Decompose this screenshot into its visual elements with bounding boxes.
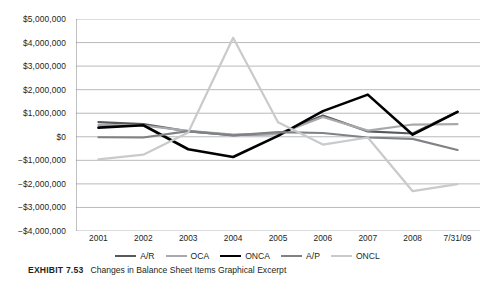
y-axis-tick-label: $5,000,000 — [23, 14, 66, 24]
legend-label: A/R — [140, 252, 154, 261]
y-axis-tick-label: $4,000,000 — [23, 38, 66, 48]
legend-label: OCA — [191, 252, 210, 261]
y-axis-tick-label: $3,000,000 — [23, 61, 66, 71]
chart-legend: A/ROCAONCAA/PONCL — [0, 249, 495, 263]
legend-item[interactable]: OCA — [166, 252, 210, 261]
x-axis-tick-label: 2005 — [269, 233, 288, 243]
legend-label: ONCL — [356, 252, 380, 261]
y-axis-tick-label: −$3,000,000 — [18, 202, 66, 212]
x-axis-tick-label: 2008 — [403, 233, 422, 243]
legend-label: ONCA — [245, 252, 270, 261]
y-axis-labels: $5,000,000$4,000,000$3,000,000$2,000,000… — [0, 19, 72, 231]
x-axis-tick-label: 2001 — [89, 233, 108, 243]
y-axis-tick-label: −$1,000,000 — [18, 155, 66, 165]
y-axis-tick-label: −$2,000,000 — [18, 179, 66, 189]
plot-area — [76, 19, 480, 231]
y-axis-tick-label: −$4,000,000 — [18, 226, 66, 236]
x-axis-tick-label: 2002 — [134, 233, 153, 243]
y-axis-tick-label: $0 — [56, 132, 66, 142]
chart-canvas — [76, 19, 480, 231]
legend-item[interactable]: ONCL — [331, 252, 380, 261]
series-oncl — [98, 38, 457, 191]
x-axis-tick-label: 2006 — [314, 233, 333, 243]
legend-line-swatch — [115, 255, 136, 257]
x-axis-tick-label: 2003 — [179, 233, 198, 243]
figure-caption: EXHIBIT 7.53Changes in Balance Sheet Ite… — [28, 266, 468, 276]
legend-item[interactable]: A/P — [281, 252, 320, 261]
y-axis-tick-label: $1,000,000 — [23, 108, 66, 118]
y-axis-tick-label: $2,000,000 — [23, 85, 66, 95]
x-axis-tick-label: 2004 — [224, 233, 243, 243]
legend-line-swatch — [281, 255, 302, 257]
x-axis-tick-label: 7/31/09 — [444, 233, 472, 243]
legend-line-swatch — [331, 255, 352, 257]
legend-label: A/P — [306, 252, 320, 261]
line-chart: $5,000,000$4,000,000$3,000,000$2,000,000… — [0, 0, 495, 248]
caption-text: Changes in Balance Sheet Items Graphical… — [90, 266, 286, 275]
legend-item[interactable]: ONCA — [220, 252, 270, 261]
x-axis-labels: 200120022003200420052006200720087/31/09 — [76, 233, 480, 247]
legend-line-swatch — [220, 255, 241, 257]
x-axis-tick-label: 2007 — [358, 233, 377, 243]
caption-number: EXHIBIT 7.53 — [28, 266, 83, 275]
legend-item[interactable]: A/R — [115, 252, 154, 261]
legend-line-swatch — [166, 255, 187, 257]
exhibit-figure: $5,000,000$4,000,000$3,000,000$2,000,000… — [0, 0, 495, 282]
